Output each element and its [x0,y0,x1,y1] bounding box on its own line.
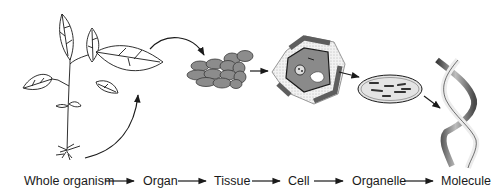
level-label-tissue: Tissue [214,174,250,188]
chloroplast-icon [358,75,422,103]
arrow-icon [424,96,440,108]
curved-arrow-icon [150,38,204,55]
biological-organization-diagram [0,0,501,194]
level-label-cell: Cell [288,174,310,188]
level-label-whole-organism: Whole organism [24,174,114,188]
level-label-organelle: Organelle [352,174,406,188]
tissue-cells-icon [187,51,253,89]
curved-arrow-icon [85,95,138,158]
plant-icon [23,14,163,160]
dna-helix-icon [437,60,476,168]
level-label-organ: Organ [143,174,178,188]
plant-cell-icon [272,36,345,104]
level-label-molecule: Molecule [441,174,491,188]
